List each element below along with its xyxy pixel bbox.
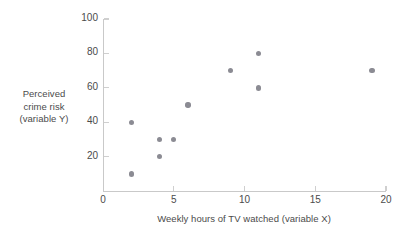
y-tick-80 [104, 53, 109, 54]
y-tick-label-60: 60 [72, 81, 98, 92]
y-tick-60 [104, 87, 109, 88]
x-tick-5 [173, 186, 174, 191]
data-point [157, 137, 162, 142]
x-tick-15 [315, 186, 316, 191]
data-point [228, 68, 233, 73]
data-point [129, 120, 134, 125]
y-axis-line [103, 19, 104, 192]
x-tick-label-20: 20 [374, 194, 398, 205]
data-point [129, 171, 134, 176]
y-axis-title-line-2: crime risk [2, 101, 86, 114]
x-axis-line [103, 191, 386, 192]
y-tick-100 [104, 18, 109, 19]
y-tick-20 [104, 156, 109, 157]
data-point [171, 137, 176, 142]
x-axis-title: Weekly hours of TV watched (variable X) [103, 213, 385, 224]
x-tick-label-15: 15 [303, 194, 327, 205]
data-point [256, 85, 261, 90]
x-tick-20 [385, 186, 386, 191]
data-point [185, 102, 190, 107]
x-tick-10 [244, 186, 245, 191]
y-tick-label-100: 100 [72, 12, 98, 23]
y-tick-40 [104, 122, 109, 123]
y-tick-label-80: 80 [72, 46, 98, 57]
data-point [157, 154, 162, 159]
scatter-plot: Perceived crime risk (variable Y) 204060… [0, 0, 404, 240]
y-tick-label-20: 20 [72, 150, 98, 161]
x-tick-label-5: 5 [162, 194, 186, 205]
data-point [256, 51, 261, 56]
x-tick-label-10: 10 [233, 194, 257, 205]
y-tick-label-40: 40 [72, 115, 98, 126]
x-tick-label-0: 0 [91, 194, 115, 205]
data-point [369, 68, 374, 73]
